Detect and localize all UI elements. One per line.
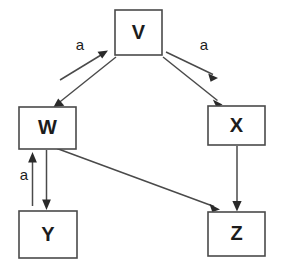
edge-x-to-z	[232, 146, 241, 212]
edge-label-v-to-x: a	[200, 36, 209, 53]
edge-y-to-w	[28, 152, 37, 206]
edge-w-to-y	[42, 150, 51, 210]
node-y[interactable]: Y	[19, 211, 77, 258]
node-v-label: V	[132, 21, 146, 43]
node-v[interactable]: V	[115, 10, 162, 55]
graph-canvas: a a a V W X Y Z	[0, 0, 282, 270]
edge-w-to-z-line	[57, 149, 214, 207]
node-z-label: Z	[230, 222, 242, 244]
edge-y-to-w-arrowhead	[28, 152, 37, 163]
edge-label-w-to-v: a	[76, 36, 85, 53]
edge-w-to-y-arrowhead	[42, 200, 51, 211]
node-z[interactable]: Z	[208, 212, 265, 256]
node-w[interactable]: W	[19, 107, 76, 149]
edge-v-to-x-labeled-line	[166, 52, 213, 75]
node-x[interactable]: X	[208, 106, 265, 145]
edge-w-to-v-line	[60, 54, 104, 81]
node-y-label: Y	[41, 223, 55, 245]
edge-w-to-v-arrowhead	[98, 51, 109, 59]
edge-v-to-x-labeled-arrowhead	[208, 74, 218, 82]
edge-x-to-z-arrowhead	[232, 201, 241, 212]
edge-v-to-x-labeled	[166, 52, 218, 82]
edge-label-y-to-w: a	[20, 166, 29, 183]
edge-w-to-v	[60, 51, 108, 81]
edge-w-to-z-arrowhead	[209, 204, 220, 212]
edge-w-to-z	[57, 149, 220, 213]
node-w-label: W	[38, 116, 57, 138]
node-x-label: X	[230, 114, 244, 136]
graph-diagram: a a a V W X Y Z	[0, 0, 282, 270]
